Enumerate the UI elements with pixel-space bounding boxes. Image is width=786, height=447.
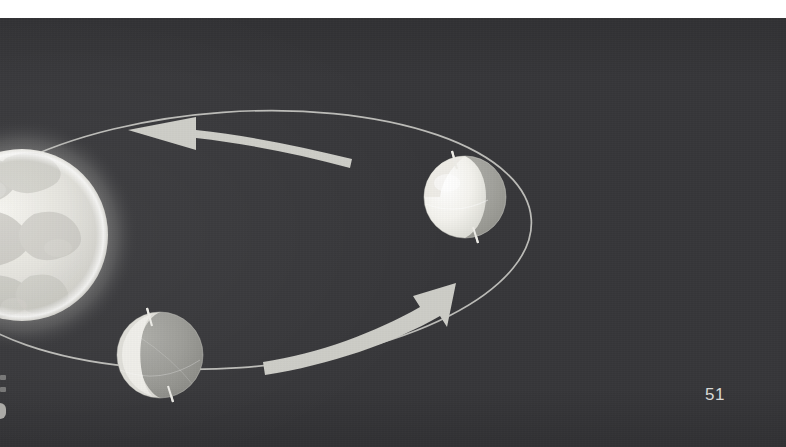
edge-mark-3: [0, 403, 6, 419]
illuminated-body: [0, 119, 138, 351]
orbit-arrow-bottom: [263, 283, 456, 375]
orbit-arrow-top: [128, 117, 352, 168]
edge-mark-1: [0, 375, 6, 380]
sphere-upper-right: [424, 151, 506, 243]
figure-page: 51: [0, 0, 786, 447]
sphere-lower-left: [117, 308, 203, 402]
page-top-margin: [0, 0, 786, 18]
page-edge-marks: [0, 358, 9, 418]
page-number: 51: [705, 385, 725, 405]
orbit-diagram-illustration: [0, 18, 786, 447]
edge-mark-2: [0, 387, 6, 392]
figure-plate: 51: [0, 18, 786, 447]
